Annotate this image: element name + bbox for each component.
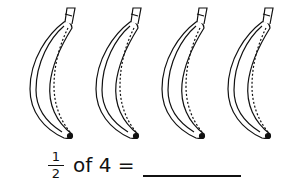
fraction-equation: 1 2 of 4 = (40, 148, 288, 187)
banana-icon (20, 4, 84, 142)
banana-icon (86, 4, 150, 142)
banana-icon (218, 4, 282, 142)
fraction-numerator: 1 (48, 150, 64, 163)
equation-text: of 4 = (73, 153, 134, 177)
fraction: 1 2 (48, 150, 64, 180)
banana-icon (152, 4, 216, 142)
banana-illustrations (0, 0, 288, 145)
answer-blank[interactable] (143, 175, 241, 177)
fraction-denominator: 2 (48, 167, 64, 180)
